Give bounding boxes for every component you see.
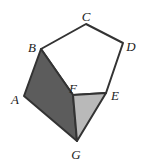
vertex-label-e: E [111,89,119,102]
vertex-label-c: C [82,10,91,23]
vertex-label-f: F [69,82,77,95]
vertex-label-b: B [28,41,36,54]
vertex-label-a: A [11,93,19,106]
geometric-figure: C D B A F E G [0,0,145,167]
vertex-label-d: D [126,40,135,53]
light-face [73,93,106,141]
vertex-label-g: G [71,148,80,161]
